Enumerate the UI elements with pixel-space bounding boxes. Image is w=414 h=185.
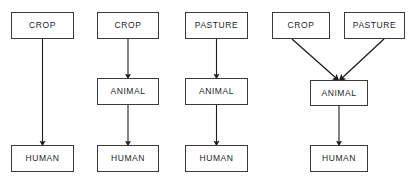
node-label: HUMAN <box>111 154 145 163</box>
node-human-col4: HUMAN <box>310 145 368 172</box>
node-animal-col3: ANIMAL <box>185 78 248 105</box>
node-label: PASTURE <box>353 21 396 30</box>
node-crop-col1: CROP <box>11 12 74 39</box>
node-label: ANIMAL <box>199 87 234 96</box>
node-label: CROP <box>288 21 315 30</box>
arrow-crop-to-animal-col4 <box>292 39 337 79</box>
node-animal-col2: ANIMAL <box>97 78 159 105</box>
node-label: CROP <box>29 21 56 30</box>
arrow-pasture-to-animal-col4 <box>342 39 385 79</box>
node-label: PASTURE <box>195 21 238 30</box>
node-label: HUMAN <box>322 154 356 163</box>
node-human-col1: HUMAN <box>11 145 74 172</box>
node-label: HUMAN <box>200 154 234 163</box>
node-pasture-col4: PASTURE <box>344 12 405 39</box>
node-crop-col2: CROP <box>97 12 159 39</box>
node-label: ANIMAL <box>322 89 357 98</box>
node-human-col3: HUMAN <box>185 145 248 172</box>
node-human-col2: HUMAN <box>97 145 159 172</box>
node-label: ANIMAL <box>111 87 146 96</box>
node-pasture-col3: PASTURE <box>185 12 248 39</box>
diagram-canvas: CROP HUMAN CROP ANIMAL HUMAN PASTURE ANI… <box>0 0 414 185</box>
node-label: HUMAN <box>26 154 60 163</box>
node-crop-col4: CROP <box>272 12 330 39</box>
node-label: CROP <box>115 21 142 30</box>
node-animal-col4: ANIMAL <box>310 80 368 106</box>
